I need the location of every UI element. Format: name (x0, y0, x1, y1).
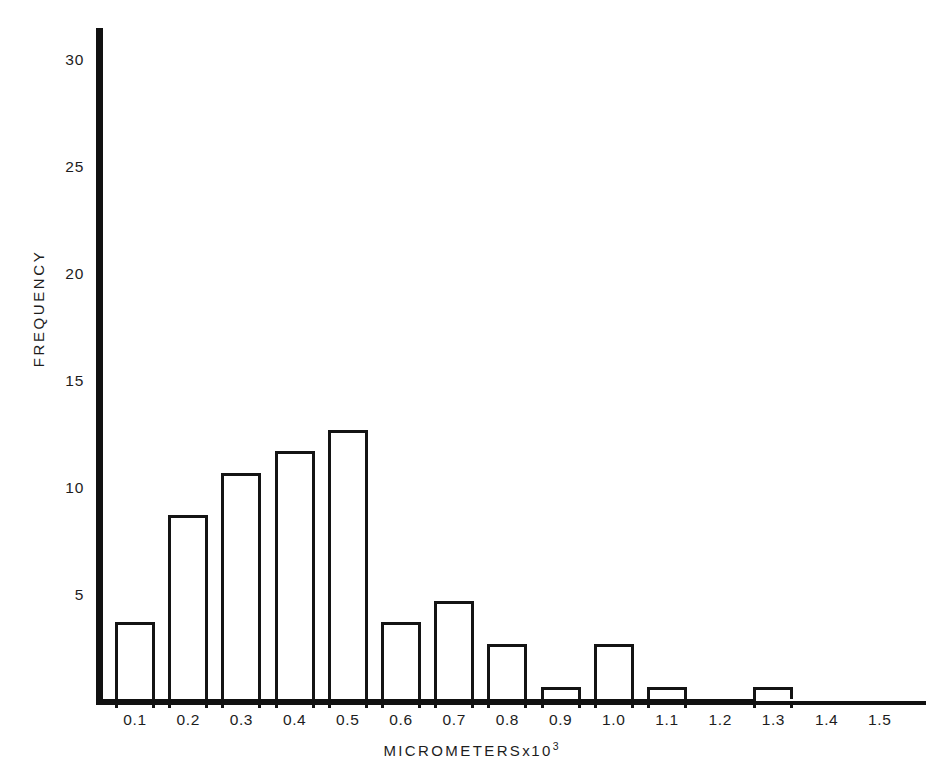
x-tick-label-0.4: 0.4 (283, 711, 306, 729)
x-tick-label-0.8: 0.8 (496, 711, 519, 729)
bar-0.3 (221, 473, 261, 708)
x-tick-label-1.1: 1.1 (655, 711, 678, 729)
x-tick-label-0.6: 0.6 (389, 711, 412, 729)
plot-area (96, 28, 926, 705)
bar-0.4 (275, 451, 315, 708)
x-tick-label-1.4: 1.4 (815, 711, 838, 729)
y-tick-label-25: 25 (65, 158, 84, 176)
x-tick-label-1.3: 1.3 (762, 711, 785, 729)
x-tick-label-1.2: 1.2 (709, 711, 732, 729)
x-tick-label-0.9: 0.9 (549, 711, 572, 729)
bar-0.7 (434, 601, 474, 708)
x-axis-tick-labels: 0.10.20.30.40.50.60.70.80.91.01.11.21.31… (0, 711, 942, 737)
y-axis-title: FREQUENCY (30, 224, 47, 394)
x-tick-label-0.2: 0.2 (177, 711, 200, 729)
x-tick-label-0.7: 0.7 (443, 711, 466, 729)
x-axis-title: MICROMETERSx103 (0, 740, 942, 759)
bar-0.6 (381, 622, 421, 708)
x-tick-label-1.5: 1.5 (868, 711, 891, 729)
y-tick-label-30: 30 (65, 51, 84, 69)
y-tick-label-20: 20 (65, 265, 84, 283)
y-tick-label-5: 5 (75, 586, 84, 604)
x-axis-line (96, 699, 926, 705)
y-tick-label-15: 15 (65, 372, 84, 390)
x-tick-label-0.1: 0.1 (123, 711, 146, 729)
x-axis-title-base: 10 (531, 742, 553, 759)
x-tick-label-0.3: 0.3 (230, 711, 253, 729)
x-tick-label-0.5: 0.5 (336, 711, 359, 729)
bar-0.5 (328, 430, 368, 708)
histogram-figure: 51015202530 FREQUENCY 0.10.20.30.40.50.6… (0, 0, 942, 768)
x-tick-label-1.0: 1.0 (602, 711, 625, 729)
x-axis-title-exponent: 3 (553, 740, 559, 752)
bar-0.1 (115, 622, 155, 708)
x-axis-title-text: MICROMETERS (383, 742, 522, 759)
y-tick-label-10: 10 (65, 479, 84, 497)
x-axis-title-times: x (522, 742, 531, 759)
bar-0.2 (168, 515, 208, 708)
